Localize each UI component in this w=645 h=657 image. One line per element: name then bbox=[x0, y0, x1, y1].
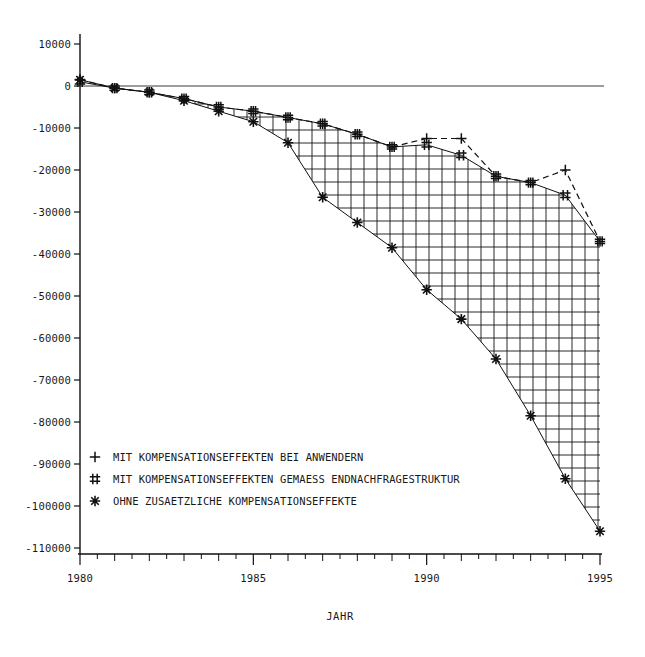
data-point-marker-star bbox=[144, 87, 154, 97]
y-tick-label: 10000 bbox=[38, 38, 71, 50]
y-tick-label: -90000 bbox=[32, 458, 71, 470]
data-point-marker-star bbox=[109, 83, 119, 93]
y-tick-label: -110000 bbox=[25, 542, 71, 554]
legend-label-0: MIT KOMPENSATIONSEFFEKTEN BEI ANWENDERN bbox=[113, 451, 363, 463]
y-tick-label: -70000 bbox=[32, 374, 71, 386]
data-point-marker-star bbox=[421, 285, 431, 295]
chart-container: 100000-10000-20000-30000-40000-50000-600… bbox=[0, 0, 645, 657]
data-point-marker-star bbox=[491, 354, 501, 364]
y-tick-label: -10000 bbox=[32, 122, 71, 134]
chart-svg: 100000-10000-20000-30000-40000-50000-600… bbox=[0, 0, 645, 657]
x-tick-label: 1980 bbox=[67, 572, 93, 584]
data-point-marker-star bbox=[283, 138, 293, 148]
x-tick-label: 1985 bbox=[240, 572, 266, 584]
y-tick-label: -50000 bbox=[32, 290, 71, 302]
y-tick-label: -80000 bbox=[32, 416, 71, 428]
data-point-marker-star bbox=[352, 217, 362, 227]
data-point-marker-star bbox=[213, 106, 223, 116]
legend-label-1: MIT KOMPENSATIONSEFFEKTEN GEMAESS ENDNAC… bbox=[113, 473, 460, 485]
x-tick-label: 1990 bbox=[414, 572, 440, 584]
x-axis-title: JAHR bbox=[326, 610, 354, 622]
y-tick-label: -20000 bbox=[32, 164, 71, 176]
y-tick-label: -40000 bbox=[32, 248, 71, 260]
y-tick-label: 0 bbox=[64, 80, 71, 92]
x-axis-title: JAHR bbox=[326, 610, 354, 622]
data-point-marker-star bbox=[317, 192, 327, 202]
data-point-marker-star bbox=[456, 314, 466, 324]
data-point-marker-star bbox=[387, 243, 397, 253]
legend-label-2: OHNE ZUSAETZLICHE KOMPENSATIONSEFFEKTE bbox=[113, 495, 357, 507]
data-point-marker-star bbox=[525, 411, 535, 421]
data-point-marker-star bbox=[90, 496, 100, 506]
y-tick-label: -60000 bbox=[32, 332, 71, 344]
y-tick-label: -30000 bbox=[32, 206, 71, 218]
data-point-marker-star bbox=[75, 75, 85, 85]
data-point-marker-star bbox=[179, 96, 189, 106]
x-tick-label: 1995 bbox=[587, 572, 613, 584]
y-tick-label: -100000 bbox=[25, 500, 71, 512]
data-point-marker-star bbox=[248, 117, 258, 127]
data-point-marker-star bbox=[595, 526, 605, 536]
data-point-marker-star bbox=[560, 474, 570, 484]
